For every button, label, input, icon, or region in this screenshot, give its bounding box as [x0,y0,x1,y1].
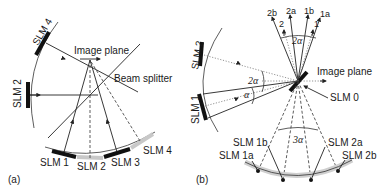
panel-b: 2b 2a 1b 1a 2 1 2α 2α α 3α Image plane S… [189,6,377,185]
ray-1b [298,15,308,81]
ray-slm4-arrow [62,58,65,59]
ray-slm1b [283,81,298,180]
slm2a-label: SLM 2a [328,137,363,148]
angle-bottom-label: 3α [292,134,304,145]
slm2-label: SLM 2 [77,161,106,172]
image-plane-label: Image plane [74,45,129,56]
angle-arc-alpha-left [252,88,254,104]
slm0-label: SLM 0 [330,92,359,103]
panel-a-label: (a) [8,174,20,185]
panel-b-label: (b) [196,174,208,185]
angle-arc-3alpha [278,128,318,131]
ray-slm1-lower [208,81,298,118]
angle-left-small-label: α [244,89,250,100]
optical-diagram: Image plane Beam splitter SLM 4 SLM 2 SL… [0,0,388,194]
slm4-label: SLM 4 [143,145,172,156]
beam-2b-label: 2b [267,8,277,18]
slm3-label: SLM 3 [111,157,140,168]
beam-1a-label: 1a [320,9,330,19]
slm3-bar [104,149,130,157]
angle-top-label: 2α [292,35,303,46]
slm2-left-label: SLM 2 [12,79,23,108]
ray-slm1-arrow [72,120,73,124]
slm1-left-label-b: SLM 1 [190,95,201,124]
order-1-arrow [312,30,313,36]
slm2-left-label-b: SLM 2 [189,40,205,71]
image-plane-label-b: Image plane [317,66,372,77]
slm2b-label: SLM 2b [342,150,377,161]
beam-2a-label: 2a [286,6,296,16]
angle-left-large-label: 2α [248,75,259,86]
beam-1b-label: 1b [304,6,314,16]
slm1a-label: SLM 1a [219,150,254,161]
panel-a: Image plane Beam splitter SLM 4 SLM 2 SL… [8,16,173,185]
leader-slm0 [304,86,328,98]
ray-slm1 [64,60,90,152]
slm1-label: SLM 1 [40,157,69,168]
ray-slm1-arrow [236,98,238,99]
beam-splitter-label: Beam splitter [114,73,173,84]
beam-splitter-line [48,44,140,138]
angle-arc-2alpha-left [262,71,264,92]
slm1b-label: SLM 1b [233,137,268,148]
ray-slm2-arrow [238,63,240,64]
order-2-label: 2 [279,19,284,29]
order-1-label: 1 [314,19,319,29]
